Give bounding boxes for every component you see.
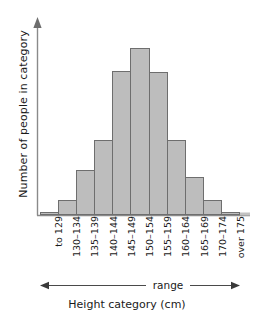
bar-160-164[interactable]: [167, 140, 186, 215]
bar-170-174[interactable]: [203, 200, 222, 215]
x-tick-label: over 175: [236, 216, 246, 258]
bar-165-169[interactable]: [185, 177, 204, 215]
x-axis-label: Height category (cm): [0, 298, 254, 312]
x-tick-cell: 170–174: [204, 216, 222, 276]
bar-135-139[interactable]: [76, 170, 95, 215]
bar-to-129[interactable]: [40, 212, 59, 215]
x-tick-cell: 165–169: [186, 216, 204, 276]
x-tick-cell: 150–154: [131, 216, 149, 276]
x-tick-cell: 145–149: [113, 216, 131, 276]
x-tick-cell: 130–134: [58, 216, 76, 276]
x-tick-cell: 135–139: [76, 216, 94, 276]
bar-130-134[interactable]: [58, 200, 77, 215]
bar-155-159[interactable]: [149, 72, 168, 215]
bar-145-149[interactable]: [112, 71, 131, 215]
range-annotation: range: [40, 277, 240, 293]
x-tick-cell: 155–159: [149, 216, 167, 276]
histogram-figure: Number of people in category: [0, 0, 254, 328]
x-tick-labels: to 129 130–134 135–139 140–144 145–149 1…: [40, 216, 240, 276]
bar-140-144[interactable]: [94, 140, 113, 215]
bar-150-154[interactable]: [130, 48, 149, 215]
x-tick-cell: over 175: [222, 216, 240, 276]
x-tick-cell: 160–164: [167, 216, 185, 276]
x-tick-cell: to 129: [40, 216, 58, 276]
bar-over-175[interactable]: [221, 212, 240, 215]
x-tick-cell: 140–144: [95, 216, 113, 276]
bar-series: [40, 18, 240, 215]
range-label: range: [146, 277, 190, 293]
